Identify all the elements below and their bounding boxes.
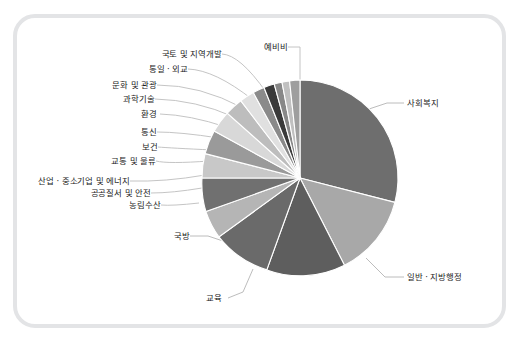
label-science-technology: 과학기술 xyxy=(105,95,155,103)
screenshot-root: 사회복지 일반 · 지방행정 교육 국방 농림수산 공공질서 및 안전 산업 ·… xyxy=(0,0,521,343)
pie-chart-svg xyxy=(0,0,521,343)
label-unification-diplomacy: 통일 · 외교 xyxy=(118,65,188,73)
label-transport-logistics: 교통 및 물류 xyxy=(86,157,156,165)
label-health: 보건 xyxy=(128,143,158,151)
label-public-order-safety: 공공질서 및 안전 xyxy=(51,189,151,197)
label-industry-sme-energy: 산업 · 중소기업 및 에너지 xyxy=(0,177,130,185)
pie-chart: 사회복지 일반 · 지방행정 교육 국방 농림수산 공공질서 및 안전 산업 ·… xyxy=(0,0,521,343)
label-land-regional-development: 국토 및 지역개발 xyxy=(112,50,222,58)
label-communication: 통신 xyxy=(127,128,157,136)
label-social-welfare: 사회복지 xyxy=(407,99,439,107)
label-culture-tourism: 문화 및 관광 xyxy=(87,81,157,89)
label-agriculture-forestry-fishery: 농림수산 xyxy=(91,201,161,209)
label-environment: 환경 xyxy=(127,110,157,118)
label-general-local-admin: 일반 · 지방행정 xyxy=(407,273,462,281)
label-education: 교육 xyxy=(206,294,222,302)
label-reserve-fund: 예비비 xyxy=(250,43,288,51)
label-defense: 국방 xyxy=(150,232,190,240)
pie-slices xyxy=(202,80,398,276)
